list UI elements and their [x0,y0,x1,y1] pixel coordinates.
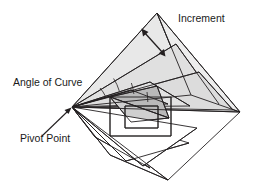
diagram-canvas: Increment Angle of Curve Pivot Point [0,0,258,191]
label-pivot-point: Pivot Point [20,132,70,144]
spiral-triangles-figure: Increment Angle of Curve Pivot Point [0,0,258,191]
label-angle-of-curve: Angle of Curve [13,76,83,88]
label-increment: Increment [178,12,225,24]
